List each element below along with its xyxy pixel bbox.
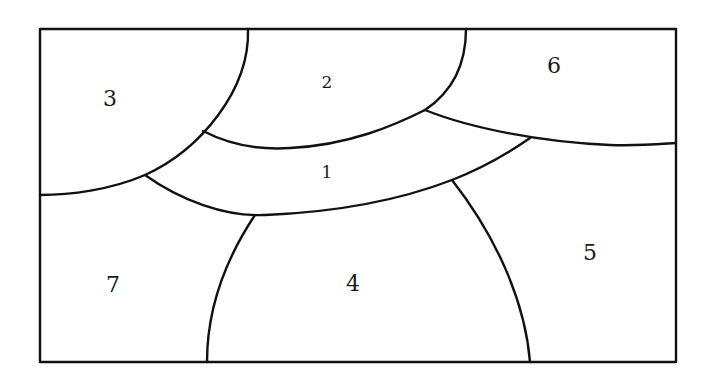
boundary-2-6 bbox=[425, 29, 466, 110]
boundary-1-2 bbox=[203, 110, 425, 148]
boundary-4-7 bbox=[207, 215, 255, 362]
region-1-label: 1 bbox=[322, 162, 333, 182]
region-diagram: 1 2 3 4 5 6 7 bbox=[0, 0, 712, 379]
boundary-3-outer bbox=[40, 29, 248, 195]
region-2-label: 2 bbox=[322, 72, 333, 92]
region-3-label: 3 bbox=[103, 86, 117, 111]
boundary-4-5 bbox=[452, 180, 530, 362]
region-4-label: 4 bbox=[346, 271, 360, 296]
region-5-label: 5 bbox=[583, 240, 597, 265]
region-6-label: 6 bbox=[547, 53, 561, 78]
outer-frame bbox=[40, 29, 676, 362]
boundary-6-5 bbox=[425, 110, 676, 145]
boundary-1-bottom bbox=[145, 138, 530, 215]
region-7-label: 7 bbox=[106, 272, 120, 297]
